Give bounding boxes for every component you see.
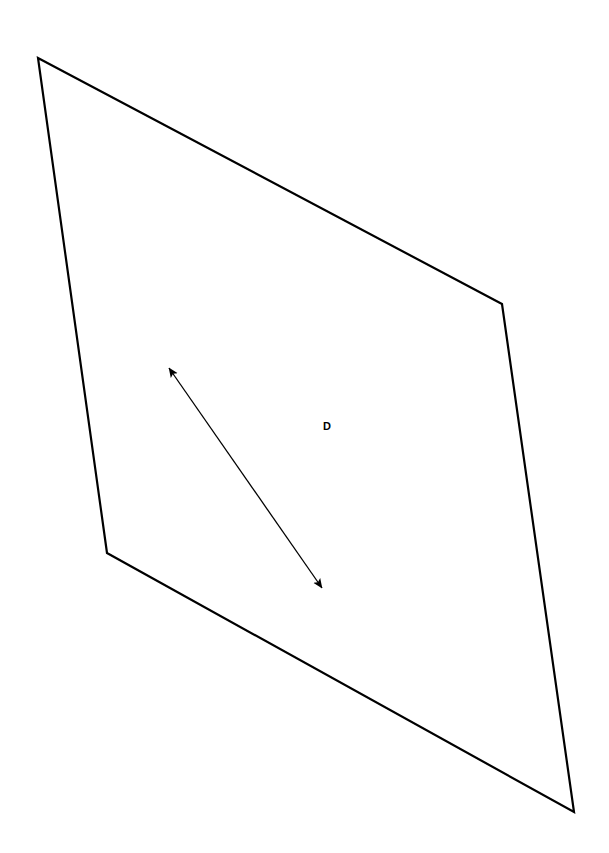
panel-outline-polygon [38, 58, 574, 812]
dimension-label-d: D [323, 420, 331, 432]
diagram-canvas: D [0, 0, 609, 853]
diagonal-dimension-arrow [169, 368, 322, 588]
geometry-figure: D [0, 0, 609, 853]
